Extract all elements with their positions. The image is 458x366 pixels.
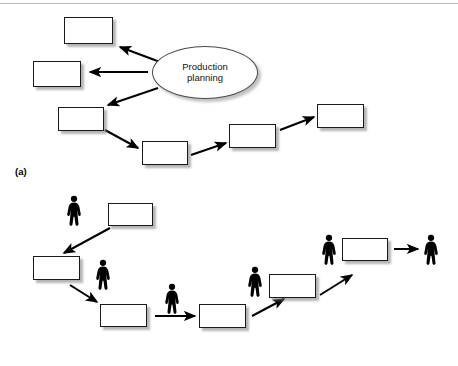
panel-a: Productionplanning (a) [0, 0, 458, 183]
process-box-a5 [229, 124, 276, 148]
process-box-a4 [142, 141, 188, 165]
process-box-b3 [100, 304, 147, 327]
process-box-a6 [317, 104, 364, 128]
arrow-b1-to-b2 [64, 228, 110, 253]
production-planning-ellipse-text: Productionplanning [182, 62, 227, 84]
worker-icon-b2 [94, 259, 112, 290]
panel-b: (b) [0, 183, 458, 366]
arrow-a4-to-a5 [191, 143, 226, 155]
arrow-planning-to-a1 [120, 47, 160, 62]
production-planning-ellipse-text-line1: Production [182, 62, 227, 73]
arrow-a5-to-a6 [280, 117, 314, 130]
process-box-b4 [199, 304, 246, 328]
process-box-b2 [33, 256, 80, 280]
production-planning-ellipse: Productionplanning [152, 46, 258, 99]
worker-icon-b1 [65, 195, 83, 226]
worker-icon-b6 [422, 234, 440, 265]
arrow-b5-to-b6 [320, 275, 352, 295]
process-box-a1 [64, 17, 113, 44]
process-box-b5 [269, 274, 316, 298]
arrow-b2-to-b3 [70, 285, 97, 302]
process-box-b1 [108, 203, 153, 226]
process-box-a3 [58, 107, 104, 131]
figure-container: Productionplanning (a) (b) [0, 0, 458, 366]
worker-icon-b3 [163, 283, 181, 314]
process-box-b6 [342, 238, 388, 261]
worker-icon-b4 [246, 266, 264, 297]
production-planning-ellipse-text-line2: planning [182, 73, 227, 84]
arrow-b4-to-b5 [252, 299, 284, 316]
arrow-planning-to-a3 [108, 88, 158, 105]
process-box-a2 [33, 61, 81, 87]
panel-label-a: (a) [15, 166, 27, 177]
worker-icon-b5 [320, 234, 338, 265]
arrow-a3-to-a4 [105, 130, 138, 148]
